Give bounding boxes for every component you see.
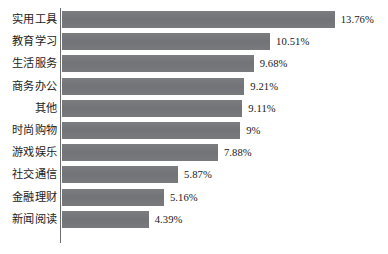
category-label: 生活服务 xyxy=(12,55,57,72)
bar-value-label: 4.39% xyxy=(155,211,183,228)
bar xyxy=(62,33,271,50)
bar xyxy=(62,78,245,95)
bar-value-label: 9.11% xyxy=(248,100,275,117)
bar-row: 时尚购物9% xyxy=(0,122,388,139)
bar xyxy=(62,166,179,183)
bar-row: 社交通信5.87% xyxy=(0,166,388,183)
bar xyxy=(62,11,335,28)
bar-value-label: 7.88% xyxy=(224,144,252,161)
category-label: 教育学习 xyxy=(12,33,57,50)
bar-row: 商务办公9.21% xyxy=(0,78,388,95)
bar-value-label: 5.16% xyxy=(170,189,198,206)
category-label: 游戏娱乐 xyxy=(12,144,57,161)
bar-row: 教育学习10.51% xyxy=(0,33,388,50)
bar-row: 生活服务9.68% xyxy=(0,55,388,72)
category-label: 商务办公 xyxy=(12,78,57,95)
bar xyxy=(62,55,254,72)
bar-chart: 实用工具13.76%教育学习10.51%生活服务9.68%商务办公9.21%其他… xyxy=(0,0,388,254)
category-label: 其他 xyxy=(35,100,57,117)
bar xyxy=(62,122,241,139)
bar xyxy=(62,211,149,228)
bar xyxy=(62,100,243,117)
bar-row: 新闻阅读4.39% xyxy=(0,211,388,228)
bar-row: 实用工具13.76% xyxy=(0,11,388,28)
bar-value-label: 5.87% xyxy=(184,166,212,183)
bar-value-label: 10.51% xyxy=(276,33,309,50)
bar-value-label: 9.68% xyxy=(260,55,288,72)
bar xyxy=(62,144,218,161)
category-label: 金融理财 xyxy=(12,189,57,206)
category-label: 实用工具 xyxy=(12,11,57,28)
bar-row: 游戏娱乐7.88% xyxy=(0,144,388,161)
category-label: 时尚购物 xyxy=(12,122,57,139)
bar xyxy=(62,189,164,206)
bar-value-label: 9% xyxy=(246,122,260,139)
category-label: 新闻阅读 xyxy=(12,211,57,228)
category-label: 社交通信 xyxy=(12,166,57,183)
bar-value-label: 13.76% xyxy=(341,11,374,28)
bar-row: 其他9.11% xyxy=(0,100,388,117)
bar-value-label: 9.21% xyxy=(250,78,278,95)
bar-row: 金融理财5.16% xyxy=(0,189,388,206)
